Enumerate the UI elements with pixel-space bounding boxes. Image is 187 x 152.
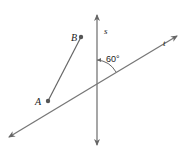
segment-ab bbox=[46, 35, 83, 103]
line-t bbox=[9, 36, 177, 137]
label-b: B bbox=[71, 32, 77, 43]
label-a: A bbox=[34, 96, 42, 107]
label-s: s bbox=[104, 26, 108, 36]
point-a bbox=[46, 99, 50, 103]
point-b bbox=[79, 35, 83, 39]
geometry-diagram: s t B A 60° bbox=[0, 0, 187, 152]
angle-label: 60° bbox=[106, 54, 120, 64]
